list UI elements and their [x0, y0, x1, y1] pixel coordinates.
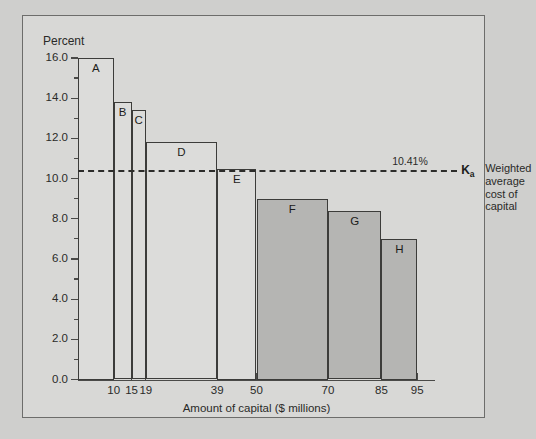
y-tick-major — [71, 178, 78, 179]
bar-label: F — [258, 203, 327, 215]
bar-label: C — [133, 114, 145, 126]
x-tick-label: 85 — [375, 384, 388, 396]
y-tick-major — [71, 299, 78, 300]
wacc-reference-line — [78, 170, 457, 172]
legend-line: average — [485, 175, 536, 188]
y-tick-label: 10.0 — [23, 172, 68, 184]
bar-label: E — [218, 173, 255, 185]
wacc-legend-text: Weightedaveragecost ofcapital — [485, 162, 536, 212]
y-tick-label: 6.0 — [23, 252, 68, 264]
y-tick-major — [71, 218, 78, 219]
y-tick-label: 0.0 — [23, 373, 68, 385]
bar-label: A — [79, 62, 113, 74]
bar-a: A — [78, 58, 114, 380]
bar-b: B — [114, 102, 132, 379]
legend-line: cost of — [485, 188, 536, 201]
bar-f: F — [257, 199, 328, 380]
x-tick-label: 50 — [250, 384, 263, 396]
bar-label: G — [329, 215, 381, 227]
bar-label: H — [382, 243, 416, 255]
x-tick-label: 10 — [107, 384, 120, 396]
y-tick-major — [71, 138, 78, 139]
bar-label: D — [147, 146, 216, 158]
y-tick-label: 12.0 — [23, 131, 68, 143]
x-axis-title: Amount of capital ($ millions) — [78, 402, 435, 414]
x-tick-label: 15 — [125, 384, 138, 396]
y-tick-label: 2.0 — [23, 332, 68, 344]
y-tick-major — [71, 258, 78, 259]
x-tick-label: 39 — [211, 384, 224, 396]
bar-label: B — [115, 106, 131, 118]
ka-symbol-label: Ka — [461, 163, 474, 179]
y-axis-title: Percent — [43, 34, 84, 48]
y-tick-major — [71, 339, 78, 340]
y-tick-label: 8.0 — [23, 212, 68, 224]
y-tick-major — [71, 98, 78, 99]
legend-line: Weighted — [485, 162, 536, 175]
y-tick-label: 14.0 — [23, 91, 68, 103]
y-tick-label: 4.0 — [23, 292, 68, 304]
x-tick-label: 95 — [411, 384, 424, 396]
legend-line: capital — [485, 200, 536, 213]
bar-d: D — [146, 142, 217, 379]
bar-h: H — [381, 239, 417, 380]
chart-frame: Percent 0.02.04.06.08.010.012.014.016.0 … — [22, 15, 485, 418]
x-tick-label: 70 — [321, 384, 334, 396]
bar-c: C — [132, 110, 146, 379]
y-tick-major — [71, 57, 78, 58]
plot-area: Percent 0.02.04.06.08.010.012.014.016.0 … — [23, 16, 486, 419]
bar-e: E — [217, 169, 256, 380]
y-tick-major — [71, 379, 78, 380]
wacc-value-label: 10.41% — [392, 155, 428, 167]
bar-g: G — [328, 211, 382, 380]
x-tick-label: 19 — [139, 384, 152, 396]
y-tick-label: 16.0 — [23, 51, 68, 63]
